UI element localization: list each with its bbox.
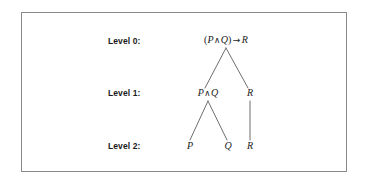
node-level2-r: R xyxy=(247,140,253,151)
conjunction-symbol: ∧ xyxy=(213,35,220,45)
implication-symbol: → xyxy=(231,35,242,45)
tree-edges xyxy=(0,0,367,180)
root-right-operand: Q xyxy=(221,34,228,45)
figure-container: Level 0: Level 1: Level 2: (P∧Q)→R P∧Q R… xyxy=(0,0,367,180)
node-root-formula: (P∧Q)→R xyxy=(204,34,248,45)
root-consequent: R xyxy=(242,34,248,45)
node-level2-p: P xyxy=(187,140,193,151)
node-level1-r: R xyxy=(247,87,253,98)
level-1-label: Level 1: xyxy=(108,88,140,98)
edge-pandq-to-q xyxy=(208,101,227,140)
level-0-label: Level 0: xyxy=(108,36,140,46)
level1-right-operand: Q xyxy=(211,87,218,98)
edge-root-to-r xyxy=(226,48,248,88)
edge-pandq-to-p xyxy=(190,101,208,140)
edge-root-to-pandq xyxy=(205,48,226,88)
node-level2-q: Q xyxy=(224,140,231,151)
node-level1-conjunction: P∧Q xyxy=(198,87,219,98)
level-2-label: Level 2: xyxy=(108,141,140,151)
